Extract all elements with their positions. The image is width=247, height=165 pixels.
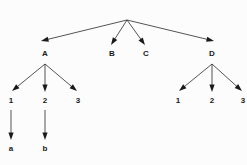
tree-edge-A-to-A1 [17,64,45,87]
arrow-head-icon-root-to-B [111,37,117,45]
tree-node-label-B: B [109,49,115,58]
arrow-head-icon-A-to-A1 [12,84,19,91]
tree-edge-A-to-A3 [45,64,72,87]
edges-group [8,20,242,140]
arrow-head-icon-D-to-D1 [179,84,186,91]
tree-node-label-A: A [42,49,48,58]
tree-node-label-a: a [9,144,14,153]
arrow-head-icon-root-to-A [41,37,49,42]
tree-node-label-A3: 3 [76,96,81,105]
tree-node-label-A2: 2 [43,96,48,105]
arrow-head-icon-A-to-A2 [42,85,47,93]
tree-node-label-D3: 3 [241,96,246,105]
arrow-head-icon-A2-to-b [42,133,47,141]
tree-node-label-A1: 1 [9,96,14,105]
tree-node-label-b: b [43,144,48,153]
arrow-head-icon-A1-to-a [8,133,13,141]
tree-edge-root-to-A [47,20,127,40]
tree-edge-D-to-D1 [184,64,212,87]
arrow-head-icon-root-to-D [206,37,214,42]
arrow-head-icon-D-to-D2 [209,85,214,93]
tree-diagram-canvas: ABCD123123ab [0,0,247,165]
tree-node-label-D1: 1 [176,96,181,105]
tree-node-label-D: D [209,49,215,58]
tree-edge-D-to-D3 [212,64,238,87]
tree-diagram: ABCD123123ab [0,0,247,165]
arrow-head-icon-root-to-C [139,37,145,45]
tree-node-label-C: C [143,49,149,58]
tree-node-label-D2: 2 [210,96,215,105]
